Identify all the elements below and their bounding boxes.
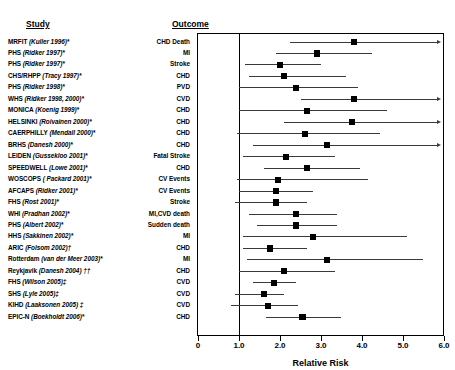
confidence-interval-line bbox=[264, 168, 360, 169]
outcome-label: CVD bbox=[118, 95, 190, 102]
study-reference: (Mendall 2000)* bbox=[48, 129, 96, 136]
outcome-label: CV Events bbox=[118, 187, 190, 194]
point-estimate-marker bbox=[351, 39, 357, 45]
axis-tick-label: 6.0 bbox=[438, 341, 449, 350]
study-name: FHS bbox=[8, 198, 21, 205]
reference-line bbox=[239, 33, 240, 336]
point-estimate-marker bbox=[275, 177, 281, 183]
study-reference: (Rost 2001)* bbox=[21, 198, 59, 205]
confidence-interval-line bbox=[249, 76, 345, 77]
confidence-interval-line bbox=[237, 179, 368, 180]
study-name: PHS bbox=[8, 60, 21, 67]
study-reference: (Danesh 2004) †† bbox=[37, 267, 90, 274]
confidence-interval-line bbox=[243, 236, 407, 237]
study-reference: (Wilson 2005)‡ bbox=[21, 278, 67, 285]
study-name: HHS bbox=[8, 232, 21, 239]
point-estimate-marker bbox=[304, 108, 310, 114]
outcome-label: CHD bbox=[118, 118, 190, 125]
ci-upper-arrow-icon bbox=[437, 40, 441, 44]
outcome-label: CVD bbox=[118, 278, 190, 285]
study-name: PHS bbox=[8, 221, 21, 228]
confidence-interval-line bbox=[247, 259, 423, 260]
study-reference: (Lowe 2001)* bbox=[47, 164, 87, 171]
study-reference: (Ridker 1997)* bbox=[21, 60, 65, 67]
point-estimate-marker bbox=[283, 154, 289, 160]
study-name: KIHD bbox=[8, 301, 23, 308]
study-reference: (Ridker 1998, 2000)* bbox=[23, 95, 84, 102]
column-header-study: Study bbox=[26, 19, 50, 29]
outcome-label: CVD bbox=[118, 301, 190, 308]
study-reference: (Roivainen 2000)* bbox=[37, 118, 91, 125]
confidence-interval-line bbox=[243, 248, 307, 249]
study-name: FHS bbox=[8, 278, 21, 285]
point-estimate-marker bbox=[304, 165, 310, 171]
outcome-label: PVD bbox=[118, 83, 190, 90]
confidence-interval-line bbox=[237, 133, 381, 134]
point-estimate-marker bbox=[299, 314, 305, 320]
study-reference: (Boekholdt 2006)* bbox=[29, 313, 84, 320]
column-header-outcome: Outcome bbox=[172, 19, 209, 29]
study-reference: (Ridker 2001)* bbox=[34, 187, 78, 194]
study-reference: (Lyle 2005)‡ bbox=[21, 290, 59, 297]
point-estimate-marker bbox=[302, 131, 308, 137]
outcome-label: CHD bbox=[118, 164, 190, 171]
point-estimate-marker bbox=[293, 222, 299, 228]
outcome-label: CHD Death bbox=[118, 38, 190, 45]
study-reference: (Koenig 1999)* bbox=[34, 106, 79, 113]
point-estimate-marker bbox=[273, 199, 279, 205]
point-estimate-marker bbox=[267, 245, 273, 251]
outcome-label: Fatal Stroke bbox=[118, 152, 190, 159]
point-estimate-marker bbox=[265, 303, 271, 309]
outcome-label: CVD bbox=[118, 290, 190, 297]
study-name: SPEEDWELL bbox=[8, 164, 47, 171]
point-estimate-marker bbox=[314, 50, 320, 56]
outcome-label: MI,CVD death bbox=[118, 210, 190, 217]
ci-upper-arrow-icon bbox=[437, 97, 441, 101]
x-axis-title-wrap: Relative Risk bbox=[197, 352, 444, 370]
study-reference: (van der Meer 2003)* bbox=[40, 255, 103, 262]
point-estimate-marker bbox=[261, 291, 267, 297]
confidence-interval-line bbox=[253, 145, 437, 146]
x-axis-title: Relative Risk bbox=[292, 358, 348, 368]
study-reference: (Kuller 1996)* bbox=[27, 38, 69, 45]
point-estimate-marker bbox=[277, 62, 283, 68]
study-reference: (Ridker 1997)* bbox=[21, 49, 65, 56]
study-name: MONICA bbox=[8, 106, 34, 113]
study-reference: ( Packard 2001)* bbox=[41, 175, 91, 182]
study-name: LEIDEN bbox=[8, 152, 31, 159]
study-name: WHS bbox=[8, 95, 23, 102]
study-reference: (Ridker 1998)* bbox=[21, 83, 65, 90]
outcome-label: MI bbox=[118, 49, 190, 56]
ci-upper-arrow-icon bbox=[437, 143, 441, 147]
study-name: SHS bbox=[8, 290, 21, 297]
point-estimate-marker bbox=[310, 234, 316, 240]
outcome-label: CHD bbox=[118, 244, 190, 251]
outcome-label: Sudden death bbox=[118, 221, 190, 228]
study-name: Reykjavik bbox=[8, 267, 37, 274]
study-reference: (Sakkinen 2002)* bbox=[21, 232, 73, 239]
point-estimate-marker bbox=[281, 268, 287, 274]
study-name: PHS bbox=[8, 83, 21, 90]
study-name: Rotterdam bbox=[8, 255, 40, 262]
study-reference: (Danesh 2000)* bbox=[26, 141, 73, 148]
confidence-interval-line bbox=[290, 42, 437, 43]
confidence-interval-line bbox=[284, 122, 437, 123]
study-name: AFCAPS bbox=[8, 187, 34, 194]
axis-tick-label: 0 bbox=[196, 341, 200, 350]
axis-tick-label: 5.0 bbox=[397, 341, 408, 350]
study-reference: (Gussekloo 2001)* bbox=[31, 152, 87, 159]
outcome-label: CHD bbox=[118, 72, 190, 79]
confidence-interval-line bbox=[301, 99, 438, 100]
outcome-label: CV Events bbox=[118, 175, 190, 182]
point-estimate-marker bbox=[349, 119, 355, 125]
axis-tick-label: 4.0 bbox=[356, 341, 367, 350]
confidence-interval-line bbox=[235, 294, 284, 295]
point-estimate-marker bbox=[281, 73, 287, 79]
study-name: MRFIT bbox=[8, 38, 27, 45]
point-estimate-marker bbox=[324, 257, 330, 263]
axis-tick-label: 3.0 bbox=[315, 341, 326, 350]
study-name: BRHS bbox=[8, 141, 26, 148]
study-name: HELSINKI bbox=[8, 118, 37, 125]
point-estimate-marker bbox=[351, 96, 357, 102]
outcome-label: Stroke bbox=[118, 60, 190, 67]
